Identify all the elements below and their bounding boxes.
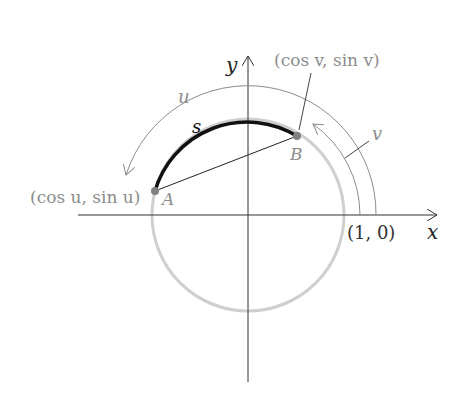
point-b-label: B	[289, 144, 303, 164]
y-axis-label: y	[225, 53, 238, 77]
a-coords-label: (cos u, sin u)	[30, 187, 140, 207]
arc-v-label: v	[372, 123, 382, 144]
point-a	[151, 187, 159, 195]
v-pointer	[345, 141, 369, 158]
arc-s-label: s	[192, 116, 201, 137]
point-a-label: A	[160, 189, 174, 209]
chord-ab	[155, 136, 297, 191]
b-coords-label: (cos v, sin v)	[274, 50, 380, 70]
arc-u-label: u	[178, 86, 190, 107]
one-zero-label: (1, 0)	[347, 222, 395, 243]
arc-s	[155, 122, 297, 191]
arc-v	[313, 124, 360, 215]
point-b	[293, 132, 301, 140]
x-axis-label: x	[427, 220, 438, 244]
unit-circle-diagram: y x (1, 0) (cos v, sin v) (cos u, sin u)…	[0, 0, 463, 403]
